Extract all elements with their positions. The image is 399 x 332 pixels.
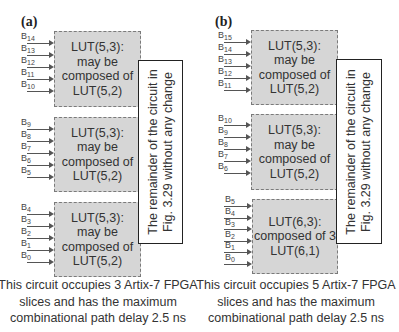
arrow-head-icon: [49, 162, 54, 168]
arrow-head-icon: [49, 64, 54, 70]
arrow-head-icon: [246, 87, 251, 93]
arrow-head-icon: [246, 158, 251, 164]
input-signal: B5: [21, 174, 54, 186]
arrow-head-icon: [247, 226, 252, 232]
arrow-head-icon: [246, 39, 251, 45]
input-wire: [224, 90, 247, 91]
input-label: B7: [21, 141, 31, 152]
lut-text: composed of: [62, 155, 134, 170]
remainder-text: Fig. 3.29 without any change: [161, 62, 176, 242]
panel-a-label: (a): [21, 14, 37, 30]
remainder-text: Fig. 3.29 without any change: [359, 62, 374, 242]
input-label: B11: [218, 78, 231, 89]
panel-b-label: (b): [215, 14, 232, 30]
arrow-head-icon: [49, 259, 54, 265]
input-label: B9: [218, 125, 228, 136]
input-wire: [224, 173, 247, 174]
lut-text: composed of 3: [254, 229, 336, 244]
arrow-head-icon: [49, 126, 54, 132]
lut-text: LUT(5,3):: [71, 40, 124, 55]
lut-text: LUT(5,3):: [71, 126, 124, 141]
arrow-head-icon: [247, 203, 252, 209]
lut-text: composed of: [259, 152, 331, 167]
arrow-head-icon: [246, 63, 251, 69]
lut-text: composed of: [62, 69, 134, 84]
input-label: B12: [21, 55, 35, 66]
arrow-head-icon: [49, 223, 54, 229]
input-signal: B6: [218, 170, 251, 182]
input-wire: [27, 262, 50, 263]
input-label: B6: [218, 161, 228, 172]
arrow-head-icon: [49, 150, 54, 156]
lut-text: LUT(5,2): [73, 254, 122, 269]
lut-text: LUT(5,2): [73, 169, 122, 184]
arrow-head-icon: [246, 51, 251, 57]
arrow-head-icon: [247, 215, 252, 221]
input-label: B4: [21, 202, 31, 213]
caption-line: combinational path delay 2.5 ns: [0, 310, 198, 327]
arrow-head-icon: [246, 146, 251, 152]
input-label: B5: [225, 194, 235, 205]
panel-b-lut-1: LUT(5,3): may be composed of LUT(5,2): [251, 30, 338, 105]
lut-text: LUT(5,2): [270, 167, 319, 182]
input-label: B0: [225, 252, 235, 263]
input-label: B15: [218, 30, 232, 41]
lut-text: LUT(5,2): [270, 82, 319, 97]
remainder-text: The remainder of the circuit in: [146, 62, 161, 242]
lut-text: may be: [274, 138, 315, 153]
arrow-head-icon: [247, 249, 252, 255]
arrow-head-icon: [247, 261, 252, 267]
input-label: B5: [21, 165, 31, 176]
input-label: B1: [21, 238, 31, 249]
input-label: B11: [21, 67, 34, 78]
input-signal: B0: [21, 259, 54, 271]
input-label: B10: [21, 79, 35, 90]
input-label: B6: [21, 153, 31, 164]
input-label: B3: [21, 214, 31, 225]
panel-a-remainder-box: The remainder of the circuit in Fig. 3.2…: [138, 60, 183, 244]
lut-text: composed of: [259, 68, 331, 83]
caption-line: This circuit occupies 3 Artix-7 FPGA: [0, 277, 198, 294]
input-label: B14: [218, 42, 232, 53]
lut-text: LUT(5,3):: [71, 211, 124, 226]
input-label: B13: [21, 43, 35, 54]
arrow-head-icon: [49, 88, 54, 94]
arrow-head-icon: [49, 76, 54, 82]
arrow-head-icon: [49, 211, 54, 217]
lut-text: may be: [77, 225, 118, 240]
input-signal: B10: [21, 88, 54, 100]
panel-a-lut-3: LUT(5,3): may be composed of LUT(5,2): [54, 202, 141, 277]
panel-a-lut-2: LUT(5,3): may be composed of LUT(5,2): [54, 117, 141, 192]
caption-line: slices and has the maximum: [196, 294, 396, 311]
lut-text: LUT(5,3):: [268, 123, 321, 138]
arrow-head-icon: [246, 122, 251, 128]
arrow-head-icon: [246, 75, 251, 81]
remainder-text: The remainder of the circuit in: [344, 62, 359, 242]
arrow-head-icon: [49, 40, 54, 46]
input-label: B7: [218, 149, 228, 160]
arrow-head-icon: [246, 134, 251, 140]
input-label: B2: [225, 229, 235, 240]
panel-a-lut-1: LUT(5,3): may be composed of LUT(5,2): [54, 31, 141, 107]
lut-text: LUT(6,3):: [269, 215, 322, 230]
lut-text: LUT(5,2): [73, 84, 122, 99]
arrow-head-icon: [49, 235, 54, 241]
input-label: B10: [218, 113, 232, 124]
input-label: B8: [218, 137, 228, 148]
lut-text: may be: [274, 53, 315, 68]
caption-line: combinational path delay 2.5 ns: [196, 310, 396, 327]
input-label: B13: [218, 54, 232, 65]
arrow-head-icon: [49, 138, 54, 144]
lut-text: composed of: [62, 240, 134, 255]
arrow-head-icon: [247, 238, 252, 244]
panel-b-remainder-box: The remainder of the circuit in Fig. 3.2…: [336, 59, 382, 244]
input-label: B0: [21, 250, 31, 261]
panel-b-lut-3: LUT(6,3): composed of 3 LUT(6,1): [252, 199, 338, 274]
input-wire: [27, 91, 50, 92]
arrow-head-icon: [49, 247, 54, 253]
input-label: B9: [21, 117, 31, 128]
input-label: B12: [218, 66, 232, 77]
lut-text: LUT(5,3):: [268, 39, 321, 54]
input-label: B1: [225, 240, 235, 251]
lut-text: LUT(6,1): [270, 244, 319, 259]
